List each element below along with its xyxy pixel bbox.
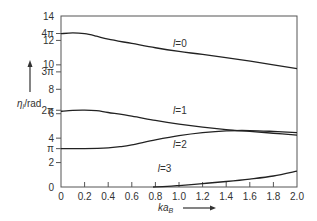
y-tick-label: 10 xyxy=(43,59,55,70)
x-tick-label: 1.0 xyxy=(172,191,186,202)
x-tick-label: 0 xyxy=(58,191,64,202)
y-axis-title: ηl/rad xyxy=(17,60,41,110)
curve-label-l0: l=0 xyxy=(173,38,187,49)
x-tick-label: 1.2 xyxy=(196,191,210,202)
x-tick-label: 1.8 xyxy=(266,191,280,202)
x-tick-label: 0.4 xyxy=(101,191,115,202)
y-axis: 02π462π83π10124π14 xyxy=(42,11,61,193)
x-axis-title: kaB xyxy=(158,202,216,214)
x-tick-label: 1.6 xyxy=(243,191,257,202)
y-axis-arrowhead-icon xyxy=(28,60,33,67)
chart-svg: 00.20.40.60.81.01.21.41.61.82.0 02π462π8… xyxy=(0,0,317,221)
y-tick-label: 14 xyxy=(43,11,55,22)
curve-l3 xyxy=(153,171,297,187)
y-tick-label: 4 xyxy=(48,133,54,144)
y-tick-label: 0 xyxy=(48,182,54,193)
x-axis-arrowhead-icon xyxy=(210,206,216,211)
curve-label-l2: l=2 xyxy=(173,139,187,150)
y-tick-label: π xyxy=(47,143,54,154)
x-tick-label: 2.0 xyxy=(290,191,304,202)
x-tick-label: 0.8 xyxy=(148,191,162,202)
curve-label-l1: l=1 xyxy=(173,105,187,116)
x-axis-label: kaB xyxy=(158,202,174,214)
y-axis-label: ηl/rad xyxy=(17,98,41,110)
x-tick-label: 0.6 xyxy=(125,191,139,202)
y-tick-label: 2 xyxy=(48,157,54,168)
x-tick-label: 0.2 xyxy=(78,191,92,202)
x-tick-label: 1.4 xyxy=(219,191,233,202)
curve-label-l3: l=3 xyxy=(158,163,172,174)
y-tick-label: 4π xyxy=(42,28,55,39)
y-tick-label: 2π xyxy=(42,105,55,116)
y-tick-label: 8 xyxy=(48,84,54,95)
curve-labels: l=0l=1l=2l=3 xyxy=(158,38,187,175)
